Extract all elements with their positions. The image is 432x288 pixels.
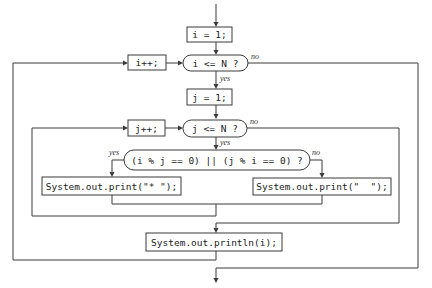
println-i-box: System.out.println(i); (146, 233, 282, 251)
cond-j-no-label: no (250, 117, 258, 126)
cond-div-decision: (i % j == 0) || (j % i == 0) ? (124, 150, 310, 170)
println-i-text: System.out.println(i); (151, 237, 277, 248)
init-j-box: j = 1; (187, 89, 232, 105)
cond-j-text: j <= N ? (192, 123, 238, 134)
cond-i-text: i <= N ? (193, 58, 239, 69)
cond-j-yes-label: yes (219, 138, 230, 147)
cond-j-decision: j <= N ? (183, 120, 247, 137)
cond-div-yes-label: yes (108, 148, 119, 157)
merge-line (112, 195, 322, 204)
entry-arrow (214, 4, 219, 27)
cond-i-yes-label: yes (219, 74, 230, 83)
cond-div-no-label: no (312, 148, 320, 157)
incr-j-text: j++; (135, 123, 158, 134)
incr-i-box: i++; (128, 55, 166, 70)
inner-loop-back-line (32, 126, 216, 217)
print-space-text: System.out.print(" "); (256, 181, 388, 192)
print-star-text: System.out.print("* "); (46, 181, 178, 192)
incr-i-text: i++; (136, 57, 159, 68)
flowchart-canvas: i = 1; i <= N ? no yes i++; j = 1; j <= … (0, 0, 432, 288)
cond-div-text: (i % j == 0) || (j % i == 0) ? (131, 155, 303, 166)
incr-j-box: j++; (128, 120, 165, 136)
cond-i-no-label: no (251, 52, 259, 61)
init-i-box: i = 1; (187, 27, 232, 42)
cond-i-decision: i <= N ? (183, 55, 248, 71)
init-i-text: i = 1; (192, 29, 226, 40)
init-j-text: j = 1; (192, 92, 226, 103)
print-space-box: System.out.print(" "); (253, 178, 391, 195)
print-star-box: System.out.print("* "); (42, 177, 181, 195)
